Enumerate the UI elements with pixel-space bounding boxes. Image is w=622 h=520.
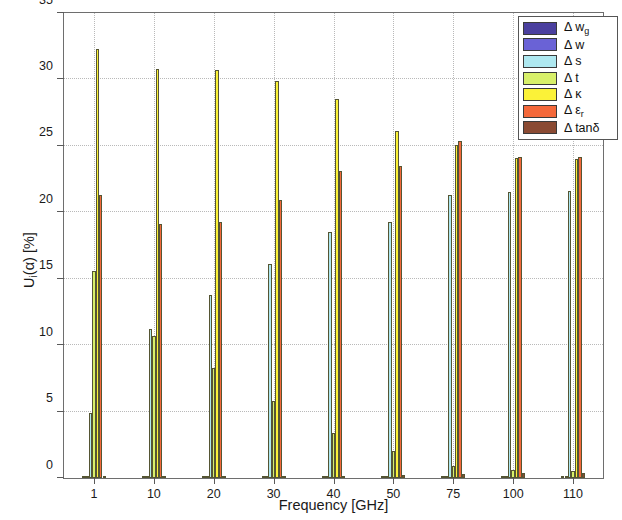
legend-item: Δ tanδ: [523, 120, 614, 137]
bar: [339, 171, 342, 478]
bar: [222, 476, 225, 478]
y-axis-tick-label: 25: [39, 125, 53, 139]
bar: [518, 157, 521, 479]
legend-label: Δ wg: [564, 21, 589, 36]
legend-item: Δ w: [523, 37, 614, 54]
y-axis-tick-label: 5: [46, 391, 53, 405]
chart-legend: Δ wgΔ wΔ sΔ tΔ κΔ εrΔ tanδ: [518, 16, 618, 140]
legend-item: Δ εr: [523, 103, 614, 120]
legend-label: Δ t: [564, 72, 579, 85]
legend-color-swatch: [523, 121, 557, 134]
legend-label: Δ tanδ: [564, 122, 599, 135]
legend-label: Δ s: [564, 55, 581, 68]
bar: [522, 473, 525, 478]
bar: [458, 141, 461, 478]
bar: [582, 473, 585, 478]
y-axis-tick-label: 0: [46, 458, 53, 472]
bar: [162, 476, 165, 478]
legend-color-swatch: [523, 22, 557, 35]
y-axis-tick-label: 10: [39, 325, 53, 339]
bar: [388, 222, 391, 478]
bar: [99, 195, 102, 478]
bar: [399, 166, 402, 478]
y-axis-tick: [57, 344, 64, 345]
y-axis-tick-label: 30: [39, 59, 53, 73]
x-axis-tick: [334, 478, 335, 484]
bar: [159, 224, 162, 478]
legend-item: Δ t: [523, 70, 614, 87]
y-axis-tick: [57, 411, 64, 412]
x-axis-tick: [154, 478, 155, 484]
legend-color-swatch: [523, 105, 557, 118]
bar: [279, 200, 282, 478]
legend-item: Δ wg: [523, 20, 614, 37]
x-axis-title: Frequency [GHz]: [63, 497, 604, 513]
bar: [568, 191, 571, 478]
y-axis-tick: [57, 12, 64, 13]
x-axis-tick: [393, 478, 394, 484]
bar: [462, 474, 465, 478]
y-axis-tick-label: 35: [39, 0, 53, 7]
bar: [282, 476, 285, 478]
legend-label: Δ w: [564, 39, 584, 52]
y-axis-tick-label: 15: [39, 258, 53, 272]
x-axis-tick: [573, 478, 574, 484]
legend-label: Δ εr: [564, 104, 584, 119]
y-axis-title: Ui(α) [%]: [21, 232, 39, 288]
legend-color-swatch: [523, 88, 557, 101]
legend-color-swatch: [523, 55, 557, 68]
y-axis-tick: [57, 78, 64, 79]
bar: [448, 195, 451, 478]
bar: [342, 476, 345, 478]
y-axis-tick: [57, 278, 64, 279]
legend-color-swatch: [523, 72, 557, 85]
x-axis-tick: [94, 478, 95, 484]
y-axis-tick-label: 20: [39, 192, 53, 206]
y-axis-tick: [57, 145, 64, 146]
bar: [578, 157, 581, 479]
x-axis-tick: [453, 478, 454, 484]
x-axis-tick: [214, 478, 215, 484]
legend-item: Δ s: [523, 53, 614, 70]
legend-label: Δ κ: [564, 88, 581, 101]
y-axis-tick: [57, 477, 64, 478]
y-axis-tick: [57, 211, 64, 212]
bar: [402, 475, 405, 478]
x-axis-tick: [274, 478, 275, 484]
legend-item: Δ κ: [523, 86, 614, 103]
x-axis-tick: [513, 478, 514, 484]
legend-color-swatch: [523, 38, 557, 51]
bar-chart-figure: Ui(α) [%] 051015202530351102030405075100…: [0, 0, 622, 520]
bar: [103, 476, 106, 478]
bar: [508, 192, 511, 478]
bar: [219, 222, 222, 478]
